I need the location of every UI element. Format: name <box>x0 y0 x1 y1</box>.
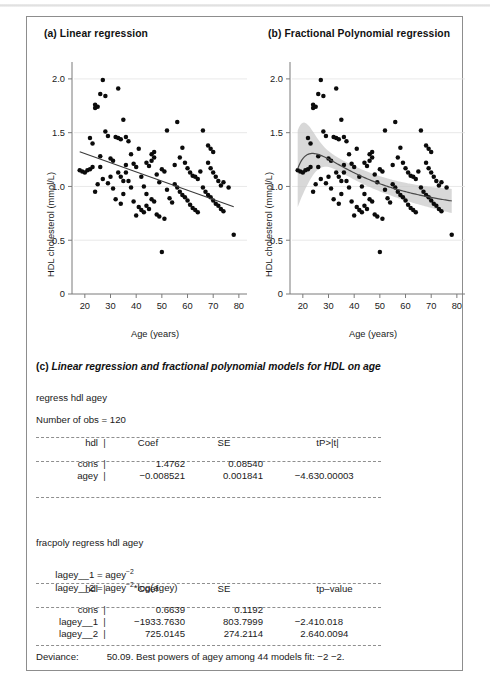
svg-text:20: 20 <box>80 301 90 311</box>
chart-panel-a: 00.51.01.52.020304050607080 HDL choleste… <box>32 52 247 352</box>
svg-text:80: 80 <box>234 301 244 311</box>
svg-text:70: 70 <box>426 301 436 311</box>
panel-a-plot: 00.51.01.52.020304050607080 <box>32 52 247 312</box>
stata-command-regress: regress hdl agey <box>36 392 107 403</box>
row-p: 0.018 <box>319 616 393 628</box>
th-hdl: hdl <box>36 583 98 597</box>
panel-b-title: (b) Fractional Polynomial regression <box>268 28 450 39</box>
th-pvalue: p–value <box>319 583 393 597</box>
table-header-row: hdl | Coef SE t P>|t| <box>36 437 393 451</box>
svg-text:0: 0 <box>60 289 65 299</box>
th-t: t <box>263 437 319 451</box>
row-t: −2.41 <box>263 616 319 628</box>
fracpoly-regression-table: hdl | Coef SE t p–value cons | 0.6639 0.… <box>36 583 393 640</box>
caption-c-text: Linear regression and fractional polynom… <box>51 361 380 372</box>
row-coef: 725.0145 <box>111 628 185 640</box>
panel-b-x-axis-label: Age (years) <box>288 329 458 339</box>
row-label: lagey__2 <box>36 628 98 640</box>
row-label: agey <box>36 470 98 482</box>
table-row: lagey__2 | 725.0145 274.2114 2.64 0.0094 <box>36 628 393 640</box>
th-bar: | <box>98 583 111 597</box>
row-p <box>319 604 393 616</box>
panel-a-title: (a) Linear regression <box>44 28 148 39</box>
row-bar: | <box>98 628 111 640</box>
th-t: t <box>263 583 319 597</box>
deviance-line: Deviance:50.09. Best powers of agey amon… <box>36 651 345 662</box>
deviance-value: 50.09. Best powers of agey among 44 mode… <box>107 651 345 662</box>
svg-text:60: 60 <box>400 301 410 311</box>
table-row: cons | 1.4762 0.08540 <box>36 458 393 470</box>
linear-regression-table: hdl | Coef SE t P>|t| cons | 1.4762 0.08… <box>36 437 393 482</box>
table-row: cons | 0.6639 0.1192 <box>36 604 393 616</box>
row-label: cons <box>36 458 98 470</box>
panel-a-y-axis-label: HDL cholesterol (mmol/L) <box>46 172 56 277</box>
svg-text:60: 60 <box>182 301 192 311</box>
top-rule <box>0 4 490 7</box>
number-of-obs: Number of obs = 120 <box>36 414 126 425</box>
th-coef: Coef <box>111 583 185 597</box>
row-t: 2.64 <box>263 628 319 640</box>
svg-text:80: 80 <box>452 301 462 311</box>
deviance-label: Deviance: <box>36 651 79 662</box>
row-bar: | <box>98 458 111 470</box>
svg-text:30: 30 <box>323 301 333 311</box>
table2-rule-bottom <box>36 645 381 646</box>
svg-text:2.0: 2.0 <box>52 74 65 84</box>
row-bar: | <box>98 616 111 628</box>
row-t <box>263 604 319 616</box>
row-se: 274.2114 <box>185 628 263 640</box>
panel-c-caption: (c) Linear regression and fractional pol… <box>36 361 381 372</box>
panel-b-plot: 00.51.01.52.020304050607080 <box>250 52 465 312</box>
svg-text:30: 30 <box>105 301 115 311</box>
th-coef: Coef <box>111 437 185 451</box>
table-row: lagey__1 | −1933.7630 803.7999 −2.41 0.0… <box>36 616 393 628</box>
svg-text:0: 0 <box>278 289 283 299</box>
row-coef: 0.6639 <box>111 604 185 616</box>
panel-b-y-axis-label: HDL cholesterol (mmol/L) <box>264 172 274 277</box>
svg-text:20: 20 <box>298 301 308 311</box>
row-p <box>319 458 393 470</box>
row-se: 0.08540 <box>185 458 263 470</box>
svg-text:50: 50 <box>157 301 167 311</box>
row-se: 0.1192 <box>185 604 263 616</box>
panel-a-x-axis-label: Age (years) <box>70 329 240 339</box>
th-p: P>|t| <box>319 437 393 451</box>
th-bar: | <box>98 437 111 451</box>
row-coef: −0.008521 <box>111 470 185 482</box>
th-se: SE <box>185 583 263 597</box>
row-label: lagey__1 <box>36 616 98 628</box>
row-se: 803.7999 <box>185 616 263 628</box>
svg-text:1.5: 1.5 <box>52 128 65 138</box>
svg-text:70: 70 <box>208 301 218 311</box>
row-p: 0.0094 <box>319 628 393 640</box>
row-bar: | <box>98 470 111 482</box>
table-row <box>36 451 393 458</box>
table-header-row: hdl | Coef SE t p–value <box>36 583 393 597</box>
row-t <box>263 458 319 470</box>
row-t: −4.63 <box>263 470 319 482</box>
caption-c-mark: (c) <box>36 361 49 372</box>
svg-text:40: 40 <box>349 301 359 311</box>
th-hdl: hdl <box>36 437 98 451</box>
svg-text:2.0: 2.0 <box>270 74 283 84</box>
th-se: SE <box>185 437 263 451</box>
row-bar: | <box>98 604 111 616</box>
chart-panel-b: 00.51.01.52.020304050607080 HDL choleste… <box>250 52 465 352</box>
table-row: agey | −0.008521 0.001841 −4.63 0.00003 <box>36 470 393 482</box>
row-coef: 1.4762 <box>111 458 185 470</box>
table1-rule-bottom <box>36 497 381 498</box>
row-coef: −1933.7630 <box>111 616 185 628</box>
row-label: cons <box>36 604 98 616</box>
svg-text:50: 50 <box>375 301 385 311</box>
svg-text:1.5: 1.5 <box>270 128 283 138</box>
row-se: 0.001841 <box>185 470 263 482</box>
svg-text:40: 40 <box>131 301 141 311</box>
row-p: 0.00003 <box>319 470 393 482</box>
table-row <box>36 597 393 604</box>
stata-command-fracpoly: fracpoly regress hdl agey <box>36 537 143 548</box>
